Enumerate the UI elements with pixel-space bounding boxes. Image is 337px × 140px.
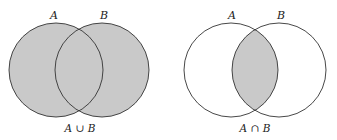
venn-diagrams: A B A ∪ B A B A ∩ B (0, 0, 337, 140)
set-b-circle (55, 23, 149, 117)
set-a-label: A (49, 9, 58, 22)
set-b-label: B (276, 9, 285, 22)
set-a-label: A (227, 9, 236, 22)
set-b-label: B (99, 9, 108, 22)
intersection-caption: A ∩ B (239, 122, 271, 134)
intersection-venn-diagram: A B A ∩ B (184, 9, 326, 134)
union-caption: A ∪ B (64, 122, 96, 134)
union-venn-diagram: A B A ∪ B (9, 9, 149, 134)
intersection-region (232, 23, 326, 117)
